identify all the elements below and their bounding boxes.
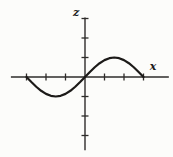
x-axis-label: x (149, 60, 157, 73)
plot-canvas: z x (0, 0, 173, 157)
z-axis-label: z (72, 6, 80, 19)
sine-curve-figure: z x (0, 0, 173, 157)
